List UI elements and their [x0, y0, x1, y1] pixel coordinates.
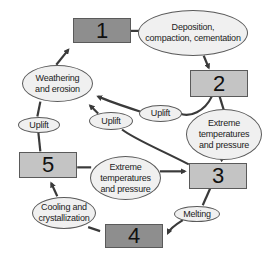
rock-box-3: 3: [189, 163, 247, 189]
deposition-line2: compaction, cementation: [145, 33, 240, 43]
rock-box-5: 5: [19, 152, 77, 178]
rock-box-1: 1: [73, 18, 131, 43]
rock-box-4: 4: [105, 224, 163, 248]
weathering-line1: Weathering: [36, 73, 80, 83]
uplift-mid-oval: Uplift: [89, 112, 133, 130]
extreme-mid-line2: temperatures: [100, 173, 151, 183]
uplift-left-oval: Uplift: [18, 117, 60, 133]
cooling-oval: Cooling and crystallization: [32, 197, 96, 229]
extreme-right-line3: and pressure: [199, 140, 249, 150]
weathering-oval: Weathering and erosion: [22, 65, 93, 102]
box-4-label: 4: [128, 223, 140, 249]
uplift-top-oval: Uplift: [139, 105, 182, 122]
cooling-line2: crystallization: [38, 213, 89, 223]
box-1-label: 1: [96, 18, 108, 44]
uplift-top-label: Uplift: [151, 108, 170, 119]
box-3-label: 3: [212, 163, 224, 189]
melting-label: Melting: [183, 209, 211, 220]
deposition-line1: Deposition,: [172, 22, 215, 32]
extreme-mid-line1: Extreme: [109, 162, 141, 172]
rock-box-2: 2: [190, 70, 248, 97]
extreme-right-oval: Extreme temperatures and pressure: [186, 109, 262, 160]
box-5-label: 5: [42, 152, 54, 178]
box-2-label: 2: [213, 71, 225, 97]
extreme-right-line1: Extreme: [208, 118, 240, 128]
extreme-mid-oval: Extreme temperatures and pressure: [90, 156, 161, 200]
weathering-line2: and erosion: [35, 84, 80, 94]
uplift-mid-label: Uplift: [101, 116, 120, 127]
cooling-line1: Cooling and: [41, 202, 87, 212]
deposition-oval: Deposition, compaction, cementation: [138, 10, 248, 56]
extreme-right-line2: temperatures: [199, 129, 250, 139]
uplift-left-label: Uplift: [29, 120, 48, 131]
extreme-mid-line3: and pressure: [100, 184, 150, 194]
melting-oval: Melting: [174, 206, 220, 222]
